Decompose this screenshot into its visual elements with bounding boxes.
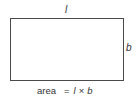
length-label: l bbox=[65, 5, 67, 15]
formula-equals: = bbox=[64, 85, 70, 96]
formula-term-breadth: b bbox=[87, 85, 92, 96]
area-formula: area=l×b bbox=[37, 86, 93, 96]
breadth-label: b bbox=[126, 43, 132, 53]
formula-lhs: area bbox=[37, 85, 56, 96]
formula-multiply-operator: × bbox=[79, 85, 85, 96]
rectangle-shape bbox=[10, 18, 124, 81]
formula-term-length: l bbox=[74, 85, 76, 96]
